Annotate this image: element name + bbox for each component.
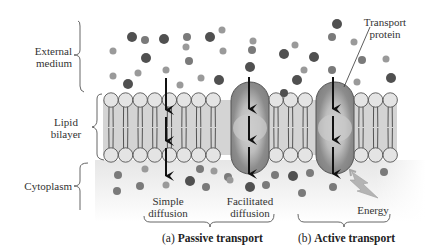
label-transport-line1: Transport [350, 16, 420, 28]
label-bilayer-line2: bilayer [42, 128, 90, 140]
label-external-line1: External [22, 45, 72, 57]
caption-a-label: Passive transport [178, 232, 263, 244]
label-transport-line2: protein [350, 28, 420, 40]
caption-b-label: Active transport [314, 232, 395, 244]
label-simple-line2: diffusion [143, 207, 193, 219]
label-energy: Energy [350, 204, 396, 216]
caption-active-transport: (b) Active transport [298, 232, 395, 244]
label-simple-diffusion: Simple diffusion [143, 195, 193, 219]
label-facilitated-diffusion: Facilitated diffusion [219, 195, 281, 219]
caption-passive-transport: (a) Passive transport [162, 232, 263, 244]
transport-protein-active [316, 82, 354, 174]
label-lipid-bilayer: Lipid bilayer [42, 116, 90, 140]
label-bilayer-line1: Lipid [42, 116, 90, 128]
label-cytoplasm: Cytoplasm [10, 180, 72, 192]
label-facilitated-line2: diffusion [219, 207, 281, 219]
label-external-medium: External medium [22, 45, 72, 69]
caption-a-letter: (a) [162, 232, 175, 244]
label-external-line2: medium [22, 57, 72, 69]
label-cytoplasm-line1: Cytoplasm [10, 180, 72, 192]
label-facilitated-line1: Facilitated [219, 195, 281, 207]
label-energy-text: Energy [350, 204, 396, 216]
label-transport-protein: Transport protein [350, 16, 420, 40]
label-simple-line1: Simple [143, 195, 193, 207]
caption-b-letter: (b) [298, 232, 311, 244]
